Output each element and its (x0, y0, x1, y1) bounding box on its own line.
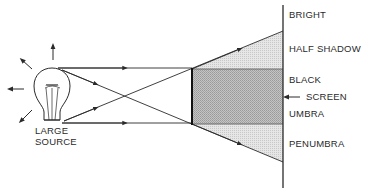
label-umbra: UMBRA (289, 108, 324, 119)
source-label-line2: SOURCE (35, 136, 77, 147)
label-penumbra: PENUMBRA (289, 138, 344, 149)
label-black: BLACK (289, 74, 321, 85)
source-label-line1: LARGE (35, 125, 68, 136)
umbra-region (192, 69, 283, 124)
label-screen: SCREEN (306, 91, 347, 102)
label-bright: BRIGHT (289, 9, 326, 20)
label-half-shadow: HALF SHADOW (289, 43, 361, 54)
